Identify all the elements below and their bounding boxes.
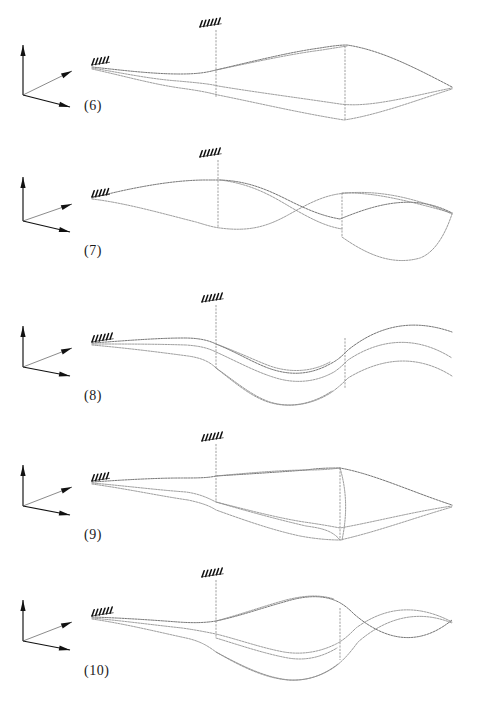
mode-shape-curve <box>92 45 452 87</box>
mode-shape-curve <box>216 368 332 405</box>
support-hatch-tick <box>92 191 94 197</box>
support-hatch-tick <box>106 473 108 479</box>
mode-shape-canvas <box>0 420 485 560</box>
mode-shape-curve <box>92 610 452 653</box>
mode-shape-panel: (9) <box>0 420 485 560</box>
support-hatch-tick <box>207 150 209 156</box>
support-hatch-tick <box>220 293 222 299</box>
fixed-support-symbol <box>91 57 110 65</box>
support-hatch-tick <box>92 59 94 65</box>
mode-shape-curve <box>220 180 342 229</box>
fixed-support-symbol <box>199 148 222 157</box>
mode-shape-canvas <box>0 560 485 700</box>
mode-shape-panel: (10) <box>0 560 485 700</box>
support-hatch-tick <box>92 475 94 481</box>
panel-number-label: (7) <box>84 243 102 259</box>
mode-shape-curve <box>92 192 452 229</box>
support-hatch-tick <box>206 570 208 576</box>
axis-vertical-arrowhead <box>20 45 25 56</box>
support-hatch-tick <box>220 432 222 438</box>
support-hatch-tick <box>103 57 105 63</box>
support-hatch-tick <box>110 607 112 613</box>
axis-span-arrowhead <box>59 510 70 515</box>
support-hatch-tick <box>204 150 206 156</box>
support-hatch-tick <box>103 334 105 340</box>
axis-depth-arrowhead <box>61 487 72 493</box>
mode-shape-curve <box>92 345 452 405</box>
support-hatch-tick <box>206 295 208 301</box>
support-hatch-tick <box>106 334 108 340</box>
mode-shape-canvas <box>0 280 485 420</box>
fixed-support-symbol <box>201 432 224 441</box>
axis-depth-arrowhead <box>61 622 72 628</box>
support-hatch-tick <box>214 149 216 155</box>
support-hatch-tick <box>200 151 202 157</box>
axis-depth-arrowhead <box>61 71 72 78</box>
support-hatch-tick <box>216 433 218 439</box>
support-hatch-tick <box>96 609 98 615</box>
axis-span-arrowhead <box>59 102 70 107</box>
support-hatch-tick <box>218 148 220 154</box>
mode-shape-curve <box>92 616 452 680</box>
mode-shape-curve <box>216 502 340 540</box>
support-hatch-tick <box>92 610 94 616</box>
fixed-support-symbol <box>91 333 114 342</box>
mode-shape-panel: (8) <box>0 280 485 420</box>
mode-shape-curve <box>216 46 347 70</box>
axis-depth-arrowhead <box>61 204 72 210</box>
support-hatch-tick <box>211 19 213 25</box>
mode-shape-panel: (6) <box>0 0 485 140</box>
panel-number-label: (10) <box>84 663 109 679</box>
support-hatch-tick <box>207 20 209 26</box>
panel-number-label: (6) <box>84 98 102 114</box>
mode-shape-curve <box>92 483 452 528</box>
fixed-support-symbol <box>91 607 114 616</box>
support-hatch-tick <box>214 19 216 25</box>
support-hatch-tick <box>206 434 208 440</box>
mode-shape-curve <box>92 597 452 638</box>
axis-vertical-arrowhead <box>20 465 25 476</box>
support-hatch-tick <box>200 21 202 27</box>
mode-shape-curve <box>92 484 452 540</box>
support-hatch-tick <box>213 569 215 575</box>
mode-shape-curve <box>216 638 337 659</box>
support-hatch-tick <box>99 190 101 196</box>
fixed-support-symbol <box>91 189 110 197</box>
support-hatch-tick <box>96 190 98 196</box>
support-hatch-tick <box>213 433 215 439</box>
support-hatch-tick <box>96 474 98 480</box>
mode-shape-canvas <box>0 140 485 280</box>
fixed-support-symbol <box>199 18 222 27</box>
mode-shape-figure: (6)(7)(8)(9)(10) <box>0 0 485 702</box>
fixed-support-symbol <box>201 568 224 577</box>
mode-shape-curve <box>92 68 452 105</box>
support-hatch-tick <box>110 333 112 339</box>
fixed-support-symbol <box>91 473 110 481</box>
support-hatch-tick <box>220 568 222 574</box>
support-hatch-tick <box>218 18 220 24</box>
support-hatch-tick <box>106 57 108 63</box>
mode-shape-curve <box>216 596 334 621</box>
axis-span-arrowhead <box>59 227 70 232</box>
support-hatch-tick <box>209 570 211 576</box>
axis-vertical-arrowhead <box>20 600 25 611</box>
mode-shape-curve <box>342 214 452 261</box>
support-hatch-tick <box>213 294 215 300</box>
support-hatch-tick <box>96 335 98 341</box>
support-hatch-tick <box>96 58 98 64</box>
axis-vertical-arrowhead <box>20 326 25 337</box>
support-hatch-tick <box>202 435 204 441</box>
support-hatch-tick <box>202 571 204 577</box>
panel-number-label: (8) <box>84 388 102 404</box>
axis-span-arrowhead <box>59 371 70 376</box>
support-hatch-tick <box>209 434 211 440</box>
mode-shape-curve <box>92 325 452 373</box>
axis-span-arrowhead <box>59 645 70 650</box>
mode-shape-curve <box>216 344 330 371</box>
support-hatch-tick <box>99 335 101 341</box>
mode-shape-canvas <box>0 0 485 140</box>
support-hatch-tick <box>202 296 204 302</box>
axis-vertical-arrowhead <box>20 177 25 188</box>
mode-shape-curve <box>92 468 452 505</box>
panel-number-label: (9) <box>84 527 102 543</box>
